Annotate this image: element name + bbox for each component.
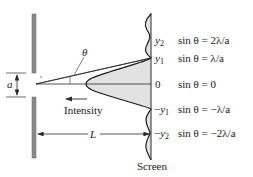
svg-text:0: 0 [155, 78, 161, 90]
angle-label: θ [82, 46, 88, 58]
screen-label: Screen [137, 160, 167, 172]
condition-y2: sin θ = 2λ/a [178, 34, 229, 46]
slit-width-label: a [7, 78, 13, 90]
diffraction-diagram: a θ Intensity L Sc [0, 0, 253, 177]
angle-marker [70, 57, 84, 84]
condition-zero: sin θ = 0 [178, 78, 217, 90]
position-neg-y2: −y2 [154, 127, 169, 141]
barrier-top [32, 14, 36, 73]
condition-neg-y2: sin θ = −2λ/a [178, 127, 236, 139]
condition-y1: sin θ = λ/a [178, 52, 224, 64]
distance-label: L [89, 128, 96, 140]
svg-text:−y2: −y2 [154, 127, 169, 141]
svg-text:y1: y1 [154, 52, 164, 66]
svg-text:−y1: −y1 [154, 103, 169, 117]
position-zero: 0 [155, 78, 161, 90]
position-y1: y1 [154, 52, 164, 66]
position-neg-y1: −y1 [154, 103, 169, 117]
svg-text:y2: y2 [154, 34, 164, 48]
position-y2: y2 [154, 34, 164, 48]
condition-neg-y1: sin θ = −λ/a [178, 103, 230, 115]
barrier-bottom [32, 97, 36, 158]
intensity-label: Intensity [64, 104, 103, 116]
